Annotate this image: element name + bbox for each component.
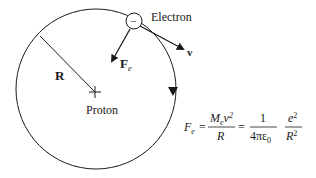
electron-label: Electron: [151, 10, 192, 24]
bohr-diagram: R Proton Fe v − Electron Fe = Mev2 R = 1…: [0, 0, 316, 178]
svg-text:=: =: [199, 120, 206, 134]
force-label: Fe: [120, 56, 132, 73]
radius-line: [40, 36, 95, 92]
orbit-direction-arrow: [168, 87, 178, 96]
svg-text:Mev2: Mev2: [209, 111, 233, 127]
svg-text:1: 1: [260, 111, 266, 125]
proton-label: Proton: [86, 103, 118, 117]
svg-text:R: R: [216, 129, 225, 143]
velocity-label: v: [187, 46, 193, 58]
velocity-arrow: [140, 26, 183, 49]
svg-text:e2: e2: [288, 111, 297, 125]
svg-text:R2: R2: [285, 129, 297, 143]
radius-label: R: [55, 68, 65, 83]
svg-text:=: =: [238, 120, 245, 134]
coulomb-equation: Fe = Mev2 R = 1 4πε0 e2 R2: [183, 111, 302, 145]
svg-text:Fe: Fe: [183, 120, 195, 136]
svg-text:4πε0: 4πε0: [250, 129, 271, 145]
electron-sign: −: [130, 15, 136, 27]
